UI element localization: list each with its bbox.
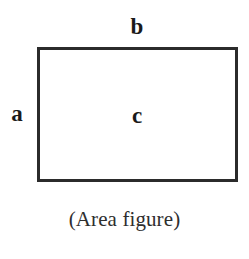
- figure-caption: (Area figure): [0, 208, 249, 231]
- interior-label-c: c: [117, 104, 157, 127]
- side-label-b: b: [117, 15, 157, 38]
- side-label-a: a: [2, 102, 32, 125]
- figure-canvas: b a c (Area figure): [0, 0, 249, 259]
